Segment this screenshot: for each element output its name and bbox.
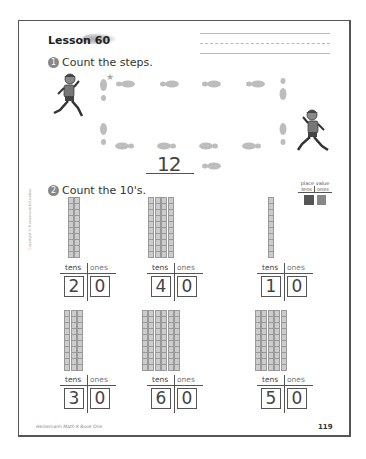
ten-rod bbox=[148, 197, 154, 258]
place-value-divider bbox=[257, 273, 313, 274]
pv-key-ones-swatch bbox=[317, 195, 326, 205]
footer-book-title: Heinemann Math K Book One bbox=[36, 424, 102, 429]
pv-key-ones-label: ones bbox=[317, 186, 329, 192]
ten-rod bbox=[281, 310, 287, 371]
question-1-prompt: Count the steps. bbox=[62, 56, 153, 69]
place-value-key: place value tens ones bbox=[298, 180, 332, 205]
tens-answer-box[interactable]: 1 bbox=[261, 276, 281, 297]
ten-rod bbox=[68, 197, 74, 258]
question-2-title: 2Count the 10's. bbox=[48, 184, 146, 197]
tens-label: tens bbox=[65, 263, 81, 272]
ten-rod bbox=[268, 197, 274, 258]
ten-rod bbox=[77, 310, 83, 371]
place-value-divider bbox=[174, 263, 175, 301]
ones-label: ones bbox=[90, 375, 108, 384]
pv-key-tens-swatch bbox=[304, 195, 314, 205]
place-value-divider bbox=[257, 385, 313, 386]
place-value-divider bbox=[87, 263, 88, 301]
tens-label: tens bbox=[152, 263, 168, 272]
ten-rod bbox=[168, 197, 174, 258]
tens-answer-box[interactable]: 4 bbox=[151, 276, 171, 297]
tens-answer-box[interactable]: 5 bbox=[261, 388, 281, 409]
name-line-middle bbox=[200, 43, 330, 44]
place-value-divider bbox=[174, 375, 175, 413]
pv-key-tens-label: tens bbox=[301, 186, 312, 192]
ones-label: ones bbox=[177, 375, 195, 384]
ten-rod bbox=[155, 310, 161, 371]
name-line-top bbox=[200, 33, 330, 34]
tens-label: tens bbox=[262, 375, 278, 384]
tens-label: tens bbox=[152, 375, 168, 384]
ones-answer-box[interactable]: 0 bbox=[287, 276, 307, 297]
place-value-divider bbox=[147, 273, 203, 274]
place-value-divider bbox=[284, 375, 285, 413]
ten-rod bbox=[74, 197, 80, 258]
tens-answer-box[interactable]: 3 bbox=[64, 388, 84, 409]
question-number-badge: 1 bbox=[48, 57, 59, 68]
ten-rod bbox=[255, 310, 261, 371]
ones-label: ones bbox=[287, 375, 305, 384]
runner-right-icon bbox=[292, 108, 336, 156]
question-2-prompt: Count the 10's. bbox=[62, 184, 146, 197]
ten-rod bbox=[64, 310, 70, 371]
ten-rod bbox=[261, 310, 267, 371]
place-value-divider bbox=[60, 273, 116, 274]
tens-label: tens bbox=[262, 263, 278, 272]
ten-rod bbox=[168, 310, 174, 371]
place-value-divider bbox=[284, 263, 285, 301]
tens-answer-box[interactable]: 6 bbox=[151, 388, 171, 409]
place-value-key-header: tens ones bbox=[298, 186, 332, 193]
answer-underline bbox=[146, 173, 194, 174]
ones-answer-box[interactable]: 0 bbox=[177, 388, 197, 409]
lesson-title: Lesson 60 bbox=[48, 34, 110, 47]
ten-rod bbox=[155, 197, 161, 258]
page-number: 119 bbox=[318, 423, 333, 431]
ten-rod bbox=[161, 310, 167, 371]
copyright-text: Copyright © Heinemann Education bbox=[28, 189, 32, 250]
ones-answer-box[interactable]: 0 bbox=[287, 388, 307, 409]
ten-rod bbox=[268, 310, 274, 371]
ones-answer-box[interactable]: 0 bbox=[90, 276, 110, 297]
runner-left-icon bbox=[48, 72, 92, 120]
ten-rod bbox=[148, 310, 154, 371]
tens-label: tens bbox=[65, 375, 81, 384]
tens-answer-box[interactable]: 2 bbox=[64, 276, 84, 297]
ones-label: ones bbox=[177, 263, 195, 272]
ten-rod bbox=[161, 197, 167, 258]
ten-rod bbox=[174, 310, 180, 371]
ones-label: ones bbox=[287, 263, 305, 272]
ones-label: ones bbox=[90, 263, 108, 272]
ones-answer-box[interactable]: 0 bbox=[90, 388, 110, 409]
place-value-divider bbox=[87, 375, 88, 413]
name-line-bottom[interactable] bbox=[200, 53, 330, 54]
place-value-divider bbox=[147, 385, 203, 386]
question-1-title: 1Count the steps. bbox=[48, 56, 153, 69]
question-number-badge: 2 bbox=[48, 185, 59, 196]
ten-rod bbox=[274, 310, 280, 371]
ten-rod bbox=[142, 310, 148, 371]
ones-answer-box[interactable]: 0 bbox=[177, 276, 197, 297]
ten-rod bbox=[71, 310, 77, 371]
footprint-path bbox=[100, 78, 290, 178]
place-value-divider bbox=[60, 385, 116, 386]
